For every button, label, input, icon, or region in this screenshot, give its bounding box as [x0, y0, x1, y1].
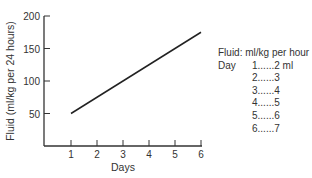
svg-text:3: 3 — [120, 149, 126, 160]
annotation-row: 6......7 — [218, 123, 309, 136]
svg-text:6: 6 — [198, 149, 204, 160]
svg-text:100: 100 — [23, 76, 40, 87]
svg-text:50: 50 — [29, 109, 41, 120]
y-ticks — [44, 16, 50, 114]
fluid-annotation: Fluid: ml/kg per hour Day1......2 ml 2..… — [218, 47, 309, 135]
annotation-row: Day1......2 ml — [218, 60, 309, 73]
svg-text:5: 5 — [172, 149, 178, 160]
x-ticks — [71, 140, 201, 146]
annotation-row: 2......3 — [218, 72, 309, 85]
x-axis-title: Days — [111, 161, 135, 173]
x-tick-labels: 1 2 3 4 5 6 — [68, 149, 204, 160]
svg-text:200: 200 — [23, 11, 40, 22]
y-axis-title: Fluid (ml/kg per 24 hours) — [4, 21, 16, 141]
svg-text:2: 2 — [94, 149, 100, 160]
svg-text:1: 1 — [68, 149, 74, 160]
annotation-row: 3......4 — [218, 85, 309, 98]
svg-text:4: 4 — [146, 149, 152, 160]
y-tick-labels: 200 150 100 50 — [23, 11, 40, 120]
annotation-row: 4......5 — [218, 97, 309, 110]
annotation-row: 5......6 — [218, 110, 309, 123]
annotation-day-label: Day — [218, 60, 252, 73]
annotation-title: Fluid: ml/kg per hour — [218, 47, 309, 60]
series-line — [71, 32, 201, 113]
svg-text:150: 150 — [23, 44, 40, 55]
